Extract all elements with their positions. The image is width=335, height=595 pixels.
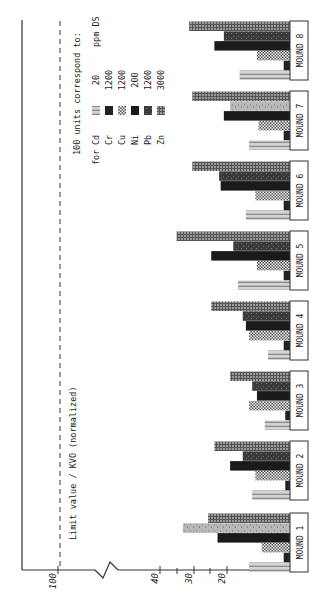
bar-cr (285, 481, 290, 491)
bar-cd (240, 71, 290, 81)
bar-cr (284, 131, 290, 141)
legend-element: Cu (117, 135, 127, 145)
tick-label-100: 100 (48, 573, 58, 589)
bar-cu (259, 121, 291, 131)
bar-cd (268, 351, 290, 361)
bar-cu (257, 261, 290, 271)
bar-chart: 20 30 40 100 Limit value / KVO (normaliz… (0, 0, 335, 595)
mound-label-text: MOUND 5 (296, 243, 305, 277)
mound-label: MOUND 3 (290, 371, 308, 430)
bar-cr (284, 341, 290, 351)
bar-cr (285, 411, 290, 421)
legend-value: 1200 (104, 70, 114, 90)
legend-element: Cd (91, 135, 101, 145)
bar-pb (252, 381, 290, 391)
bar-pb (183, 523, 290, 533)
bar-ni (218, 533, 290, 543)
legend-row-cu: Cu 1200 (117, 70, 127, 145)
legend-swatch-zn (157, 106, 165, 115)
legend-swatch-cr (105, 106, 113, 115)
bar-ni (214, 41, 290, 51)
bar-zn (192, 92, 290, 102)
mound-label: MOUND 6 (290, 161, 308, 220)
legend-row-pb: Pb 1200 (143, 70, 153, 145)
bar-cd (249, 563, 290, 573)
bar-cd (249, 141, 290, 151)
bar-cd (238, 281, 290, 291)
bar-zn (214, 442, 290, 452)
bar-pb (233, 241, 290, 251)
legend-row-cr: Cr 1200 (104, 70, 114, 145)
bar-ni (230, 461, 290, 471)
bar-pb (243, 451, 290, 461)
mound-label-text: MOUND 2 (296, 453, 305, 487)
legend-value: 20 (91, 75, 101, 85)
mound-label-text: MOUND 3 (296, 383, 305, 417)
bar-cu (255, 191, 290, 201)
legend-swatch-pb (144, 106, 152, 115)
bar-cr (284, 271, 290, 281)
legend-for: for (91, 150, 101, 165)
mound-label-text: MOUND 1 (296, 525, 305, 559)
mound-label: MOUND 2 (290, 441, 308, 500)
legend-value: 200 (130, 72, 140, 87)
legend-value: 1200 (117, 70, 127, 90)
bar-cu (257, 51, 290, 61)
bar-pb (224, 31, 290, 41)
bar-zn (189, 22, 290, 32)
legend-element: Ni (130, 135, 140, 145)
legend-swatch-cu (118, 106, 126, 115)
legend-unit: ppm DS (91, 16, 101, 47)
mound-label-text: MOUND 8 (296, 33, 305, 67)
mound-label: MOUND 7 (290, 91, 308, 150)
legend-value: 3000 (156, 70, 166, 90)
mound-label: MOUND 5 (290, 231, 308, 290)
bar-zn (177, 232, 290, 242)
legend-title: 100 units correspond to: (72, 32, 82, 155)
bar-zn (211, 302, 290, 312)
bar-cu (255, 471, 290, 481)
bar-cr (284, 201, 290, 211)
legend-element: Zn (156, 135, 166, 145)
bar-ni (221, 181, 290, 191)
legend-row-ni: Ni 200 (130, 72, 140, 145)
bar-ni (246, 321, 290, 331)
bar-cr (284, 553, 290, 563)
chart-stage: 20 30 40 100 Limit value / KVO (normaliz… (0, 0, 335, 595)
bar-cd (252, 491, 290, 501)
bar-cu (249, 401, 290, 411)
legend-row-zn: Zn 3000 (156, 70, 166, 145)
bar-pb (230, 101, 290, 111)
bar-ni (224, 111, 290, 121)
axis-break-icon (95, 562, 118, 578)
bar-cd (265, 421, 290, 431)
mound-label: MOUND 4 (290, 301, 308, 360)
legend-swatch-ni (131, 106, 139, 115)
bar-zn (192, 162, 290, 172)
legend-swatch-cd (92, 106, 100, 115)
bar-cd (246, 211, 290, 221)
bar-cu (262, 543, 290, 553)
bar-ni (257, 391, 290, 401)
bar-zn (230, 372, 290, 382)
legend-element: Cr (104, 135, 114, 145)
mound-label: MOUND 8 (290, 21, 308, 80)
bars (177, 22, 290, 573)
bar-pb (219, 171, 290, 181)
legend-row-cd: Cd 20 (91, 75, 101, 145)
mound-labels: MOUND 1MOUND 2MOUND 3MOUND 4MOUND 5MOUND… (290, 21, 308, 572)
tick-label-20: 20 (217, 573, 227, 584)
bar-cu (249, 331, 290, 341)
legend-element: Pb (143, 135, 153, 145)
bar-ni (211, 251, 290, 261)
mound-label: MOUND 1 (290, 513, 308, 572)
bar-pb (243, 311, 290, 321)
bar-cr (284, 61, 290, 71)
mound-label-text: MOUND 6 (296, 173, 305, 207)
limit-label: Limit value / KVO (normalized) (68, 386, 78, 540)
tick-label-40: 40 (150, 573, 160, 584)
tick-label-30: 30 (184, 573, 194, 585)
legend-value: 1200 (143, 70, 153, 90)
legend: 100 units correspond to: for Cd 20 Cr 12… (72, 16, 166, 165)
mound-label-text: MOUND 7 (296, 103, 305, 137)
